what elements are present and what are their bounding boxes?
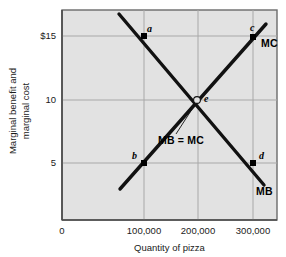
y-axis-title: Marginal benefit and marginal cost bbox=[6, 46, 36, 176]
curve-label-mc: MC bbox=[261, 38, 278, 49]
data-point-label-a: a bbox=[147, 24, 152, 34]
y-axis-title-line1: Marginal benefit and bbox=[6, 46, 19, 176]
curve-label-mb: MB bbox=[256, 186, 273, 197]
equilibrium-annotation-label: MB = MC bbox=[158, 135, 204, 146]
x-axis-title: Quantity of pizza bbox=[62, 243, 277, 253]
data-point-d bbox=[250, 160, 256, 166]
data-point-label-d: d bbox=[259, 151, 264, 161]
y-tick-label-15: $15 bbox=[22, 31, 56, 41]
data-point-c bbox=[250, 34, 256, 40]
chart-figure: $15 10 5 Marginal benefit and marginal c… bbox=[0, 0, 286, 257]
data-point-b bbox=[141, 160, 147, 166]
y-axis-title-line2: marginal cost bbox=[19, 46, 32, 176]
data-point-label-c: c bbox=[250, 23, 254, 33]
x-tick-label-0: 0 bbox=[52, 226, 72, 236]
data-point-e bbox=[194, 97, 201, 104]
data-point-label-e: e bbox=[204, 94, 208, 104]
data-point-label-b: b bbox=[132, 151, 137, 161]
x-tick-label-300000: 300,000 bbox=[221, 226, 285, 236]
plot-background bbox=[62, 10, 277, 220]
